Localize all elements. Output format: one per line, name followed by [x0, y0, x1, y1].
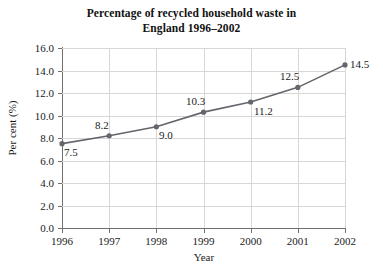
- data-point-marker: [107, 133, 112, 138]
- x-tick-mark: [251, 229, 252, 233]
- x-tick-mark: [62, 229, 63, 233]
- data-point-label: 7.5: [64, 147, 78, 158]
- y-tick-label: 2.0: [12, 201, 54, 212]
- data-point-marker: [248, 99, 253, 104]
- x-tick-label: 1998: [133, 236, 179, 247]
- x-tick-label: 1996: [39, 236, 85, 247]
- chart-title: Percentage of recycled household waste i…: [0, 6, 383, 36]
- chart-title-line-2: England 1996–2002: [0, 21, 383, 36]
- data-point-marker: [342, 62, 347, 67]
- chart-title-line-1: Percentage of recycled household waste i…: [87, 7, 297, 19]
- data-point-label: 14.5: [350, 59, 369, 70]
- gridline-vertical: [345, 48, 346, 228]
- y-tick-label: 8.0: [12, 133, 54, 144]
- y-tick-label: 4.0: [12, 178, 54, 189]
- x-tick-mark: [345, 229, 346, 233]
- data-point-label: 11.2: [254, 106, 273, 117]
- data-point-label: 10.3: [186, 96, 205, 107]
- data-point-marker: [295, 85, 300, 90]
- x-tick-label: 2000: [228, 236, 274, 247]
- data-point-label: 9.0: [159, 130, 173, 141]
- x-tick-mark: [204, 229, 205, 233]
- y-tick-label: 14.0: [12, 66, 54, 77]
- plot-area: 7.5 8.2 9.0 10.3 11.2 12.5 14.5: [62, 48, 345, 228]
- x-tick-label: 2002: [322, 236, 368, 247]
- data-point-label: 12.5: [280, 71, 299, 82]
- chart-figure: Percentage of recycled household waste i…: [0, 0, 383, 269]
- x-tick-mark: [298, 229, 299, 233]
- y-tick-label: 0.0: [12, 223, 54, 234]
- y-tick-label: 6.0: [12, 156, 54, 167]
- y-tick-label: 12.0: [12, 88, 54, 99]
- series-line-recycled-waste: [62, 48, 345, 228]
- x-axis-title: Year: [62, 251, 346, 263]
- x-tick-label: 1999: [181, 236, 227, 247]
- y-tick-label: 10.0: [12, 111, 54, 122]
- x-tick-label: 2001: [275, 236, 321, 247]
- y-tick-label: 16.0: [12, 43, 54, 54]
- x-tick-label: 1997: [86, 236, 132, 247]
- x-tick-mark: [156, 229, 157, 233]
- data-point-label: 8.2: [95, 120, 109, 131]
- data-point-marker: [201, 110, 206, 115]
- x-tick-mark: [109, 229, 110, 233]
